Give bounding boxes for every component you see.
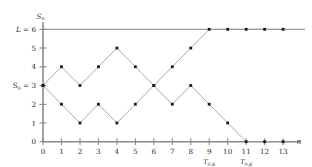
y-tick-label-1: 1 <box>31 119 36 128</box>
data-point <box>189 84 192 87</box>
x-tick-label-8: 8 <box>189 147 194 156</box>
stopping-time-label-lower: T0,6 <box>240 158 252 167</box>
data-point <box>134 65 137 68</box>
x-tick-label-4: 4 <box>115 147 120 156</box>
x-tick-label-0: 0 <box>41 147 46 156</box>
chart-svg: 0 1 2 4 5 S0 = 3 L = 6 Sn n <box>0 0 312 167</box>
barrier-label: L = 6 <box>15 25 36 34</box>
y-tick-label-2: 2 <box>31 100 36 109</box>
data-point <box>42 84 45 87</box>
x-axis-name: n <box>297 137 302 146</box>
data-point <box>245 140 248 143</box>
data-point <box>263 28 266 31</box>
x-tick-label-1: 1 <box>59 147 64 156</box>
data-point <box>171 103 174 106</box>
series-line-path-absorbed-at-6 <box>43 29 283 123</box>
data-point <box>171 65 174 68</box>
data-point <box>79 122 82 125</box>
data-point <box>115 47 118 50</box>
data-point <box>282 28 285 31</box>
data-point <box>152 84 155 87</box>
x-tick-label-12: 12 <box>260 147 269 156</box>
data-point <box>60 103 63 106</box>
stopping-time-label-upper: T0,6 <box>203 158 215 167</box>
barrier-label-eq: = 6 <box>21 25 37 34</box>
x-tick-label-5: 5 <box>133 147 138 156</box>
data-point <box>208 28 211 31</box>
y-axis-name: Sn <box>36 12 44 22</box>
x-tick-label-9: 9 <box>207 147 212 156</box>
data-point <box>60 65 63 68</box>
y-tick-label-5: 5 <box>31 44 36 53</box>
x-tick-label-11: 11 <box>242 147 251 156</box>
data-point <box>226 28 229 31</box>
series-layer <box>42 28 285 143</box>
x-tick-label-6: 6 <box>152 147 157 156</box>
x-tick-label-2: 2 <box>78 147 83 156</box>
start-value-label: S0 = 3 <box>13 81 37 91</box>
stop-sub-lower: 0,6 <box>245 162 253 167</box>
data-point <box>189 47 192 50</box>
data-point <box>115 122 118 125</box>
x-tick-label-10: 10 <box>223 147 233 156</box>
data-point <box>79 84 82 87</box>
data-point <box>282 140 285 143</box>
data-point <box>263 140 266 143</box>
data-point <box>208 103 211 106</box>
series-line-path-absorbed-at-0 <box>43 48 283 142</box>
y-tick-label-0: 0 <box>31 137 36 146</box>
random-walk-chart: 0 1 2 4 5 S0 = 3 L = 6 Sn n <box>0 0 312 167</box>
x-tick-label-7: 7 <box>170 147 175 156</box>
stop-sub-upper: 0,6 <box>208 162 216 167</box>
start-label-eq: = 3 <box>21 81 37 90</box>
data-point <box>226 122 229 125</box>
x-tick-label-13: 13 <box>279 147 289 156</box>
x-tick-label-3: 3 <box>96 147 101 156</box>
data-point <box>97 103 100 106</box>
data-point <box>245 28 248 31</box>
data-point <box>97 65 100 68</box>
y-axis-name-sub: n <box>41 16 44 21</box>
data-point <box>134 103 137 106</box>
y-tick-label-4: 4 <box>31 62 36 71</box>
